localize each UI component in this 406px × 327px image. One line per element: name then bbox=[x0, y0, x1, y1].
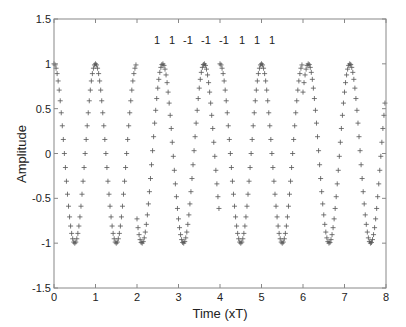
bit-label: -1 bbox=[219, 34, 229, 46]
data-point bbox=[132, 66, 137, 71]
data-point bbox=[83, 151, 88, 156]
data-point bbox=[225, 110, 230, 115]
data-point bbox=[76, 224, 81, 229]
data-point bbox=[275, 214, 280, 219]
data-point bbox=[122, 179, 127, 184]
data-point bbox=[361, 189, 366, 194]
data-point bbox=[214, 181, 219, 186]
data-point bbox=[157, 70, 162, 75]
data-point bbox=[244, 204, 249, 209]
data-point bbox=[292, 123, 297, 128]
data-point bbox=[282, 236, 287, 241]
data-point bbox=[378, 154, 383, 159]
data-point bbox=[60, 123, 65, 128]
data-point bbox=[362, 201, 367, 206]
data-point bbox=[224, 98, 229, 103]
data-point bbox=[218, 61, 223, 66]
data-point bbox=[334, 194, 339, 199]
data-point bbox=[272, 192, 277, 197]
data-point bbox=[371, 232, 376, 237]
data-point bbox=[309, 70, 314, 75]
signal-markers bbox=[52, 61, 388, 245]
data-point bbox=[137, 232, 142, 237]
x-tick-label: 8 bbox=[383, 291, 389, 303]
data-point bbox=[66, 204, 71, 209]
y-tick-label: 1.5 bbox=[36, 13, 51, 25]
data-point bbox=[220, 66, 225, 71]
data-point bbox=[145, 212, 150, 217]
data-point bbox=[153, 108, 158, 113]
data-point bbox=[332, 216, 337, 221]
data-point bbox=[172, 168, 177, 173]
data-point bbox=[280, 241, 285, 246]
data-point bbox=[123, 165, 128, 170]
data-point bbox=[104, 165, 109, 170]
data-point bbox=[234, 224, 239, 229]
x-tick-label: 2 bbox=[134, 291, 140, 303]
data-point bbox=[299, 62, 304, 67]
data-point bbox=[211, 140, 216, 145]
data-point bbox=[269, 151, 274, 156]
data-point bbox=[365, 230, 370, 235]
data-point bbox=[119, 214, 124, 219]
data-point bbox=[72, 241, 77, 246]
data-point bbox=[212, 154, 217, 159]
bit-label: 1 bbox=[269, 34, 275, 46]
data-point bbox=[375, 194, 380, 199]
data-point bbox=[127, 110, 132, 115]
data-point bbox=[100, 110, 105, 115]
data-point bbox=[216, 206, 221, 211]
data-point bbox=[109, 214, 114, 219]
x-tick-label: 4 bbox=[217, 291, 223, 303]
data-point bbox=[198, 77, 203, 82]
x-tick-label: 0 bbox=[51, 291, 57, 303]
data-point bbox=[80, 192, 85, 197]
data-point bbox=[251, 123, 256, 128]
data-point bbox=[148, 176, 153, 181]
data-point bbox=[110, 224, 115, 229]
data-point bbox=[246, 192, 251, 197]
data-point bbox=[178, 232, 183, 237]
data-point bbox=[103, 151, 108, 156]
data-point bbox=[226, 123, 231, 128]
data-point bbox=[101, 123, 106, 128]
data-point bbox=[259, 61, 264, 66]
data-point bbox=[208, 101, 213, 106]
data-point bbox=[323, 230, 328, 235]
data-point bbox=[58, 98, 63, 103]
data-point bbox=[188, 189, 193, 194]
data-point bbox=[130, 78, 135, 83]
data-point bbox=[219, 62, 224, 67]
data-point bbox=[74, 236, 79, 241]
data-point bbox=[206, 80, 211, 85]
data-point bbox=[243, 214, 248, 219]
data-point bbox=[147, 189, 152, 194]
data-point bbox=[336, 168, 341, 173]
data-point bbox=[191, 162, 196, 167]
data-point bbox=[169, 126, 174, 131]
data-point bbox=[363, 212, 368, 217]
data-point bbox=[95, 66, 100, 71]
data-point bbox=[156, 77, 161, 82]
data-point bbox=[105, 179, 110, 184]
data-point bbox=[97, 78, 102, 83]
bit-label: 1 bbox=[254, 34, 260, 46]
data-point bbox=[232, 204, 237, 209]
data-point bbox=[355, 121, 360, 126]
data-point bbox=[82, 165, 87, 170]
data-point bbox=[53, 62, 58, 67]
data-point bbox=[372, 225, 377, 230]
data-point bbox=[62, 151, 67, 156]
data-point bbox=[351, 77, 356, 82]
data-point bbox=[288, 179, 293, 184]
data-point bbox=[380, 126, 385, 131]
data-point bbox=[120, 204, 125, 209]
data-point bbox=[57, 88, 62, 93]
data-point bbox=[84, 137, 89, 142]
data-point bbox=[250, 137, 255, 142]
data-point bbox=[96, 71, 101, 76]
data-point bbox=[315, 134, 320, 139]
data-point bbox=[316, 148, 321, 153]
data-point bbox=[189, 176, 194, 181]
data-point bbox=[164, 72, 169, 77]
